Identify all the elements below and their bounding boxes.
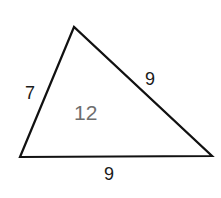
triangle [20, 27, 212, 157]
side-label-bottom: 9 [104, 164, 114, 184]
side-label-left: 7 [25, 83, 35, 103]
side-label-right: 9 [145, 69, 155, 89]
area-label: 12 [74, 101, 97, 124]
triangle-diagram: 7 9 9 12 [0, 0, 221, 198]
